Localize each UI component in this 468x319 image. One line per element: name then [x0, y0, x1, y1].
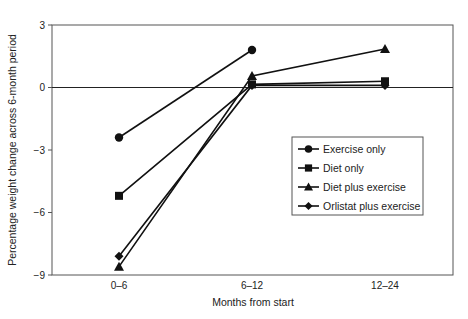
- legend-label: Exercise only: [323, 143, 386, 155]
- weight-change-chart: 30−3−6−90–66–1212–24 Exercise onlyDiet o…: [0, 0, 468, 319]
- square-marker-icon: [305, 164, 312, 171]
- series-exercise-only: [115, 46, 256, 142]
- y-tick-label: 3: [39, 20, 45, 31]
- square-marker-icon: [115, 192, 123, 200]
- circle-marker-icon: [248, 46, 256, 54]
- y-tick-label: −6: [34, 207, 46, 218]
- y-tick-label: −3: [34, 145, 46, 156]
- x-tick-label: 0–6: [111, 280, 128, 291]
- circle-marker-icon: [115, 133, 123, 141]
- legend-label: Diet plus exercise: [323, 181, 406, 193]
- series-line: [119, 50, 252, 138]
- y-tick-label: −9: [34, 270, 46, 281]
- x-tick-label: 12–24: [371, 280, 399, 291]
- chart-canvas: 30−3−6−90–66–1212–24 Exercise onlyDiet o…: [0, 0, 468, 319]
- legend: Exercise onlyDiet onlyDiet plus exercise…: [292, 137, 423, 215]
- y-axis-label: Percentage weight change across 6-month …: [6, 34, 18, 266]
- x-axis-label: Months from start: [212, 296, 294, 308]
- x-tick-label: 6–12: [241, 280, 264, 291]
- circle-marker-icon: [305, 145, 313, 153]
- legend-label: Orlistat plus exercise: [323, 200, 421, 212]
- y-tick-label: 0: [39, 82, 45, 93]
- legend-label: Diet only: [323, 162, 365, 174]
- triangle-marker-icon: [380, 44, 390, 53]
